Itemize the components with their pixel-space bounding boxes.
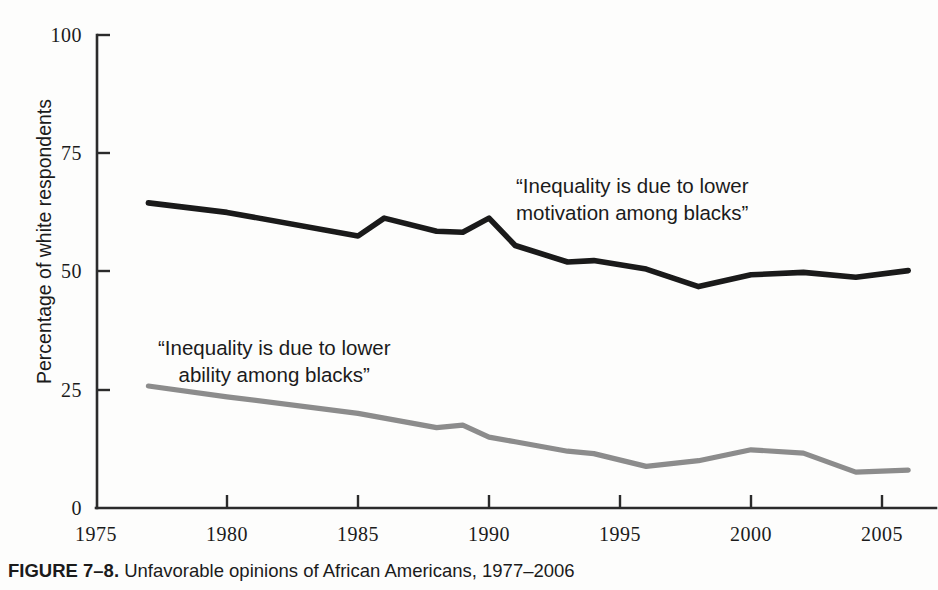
figure-caption-text: Unfavorable opinions of African American…: [119, 560, 575, 581]
x-tick-label-1995: 1995: [580, 523, 660, 546]
x-tick-marks: [227, 495, 882, 508]
annotation-motivation-line2: motivation among blacks”: [516, 199, 748, 226]
y-tick-marks: [97, 35, 110, 390]
x-tick-label-1985: 1985: [318, 523, 398, 546]
y-tick-label-0: 0: [22, 497, 82, 520]
x-tick-label-2005: 2005: [842, 523, 922, 546]
annotation-ability: “Inequality is due to lower ability amon…: [158, 334, 390, 388]
y-tick-label-100: 100: [22, 24, 82, 47]
x-tick-label-1990: 1990: [449, 523, 529, 546]
annotation-ability-line2: ability among blacks”: [158, 361, 390, 388]
figure-container: 100 75 50 25 0 1975 1980 1985 1990 1995 …: [0, 0, 938, 590]
series-line-ability: [148, 386, 908, 472]
chart-plot-area: [0, 0, 938, 590]
figure-caption: FIGURE 7–8. Unfavorable opinions of Afri…: [8, 560, 575, 582]
x-tick-label-2000: 2000: [711, 523, 791, 546]
y-axis-title: Percentage of white respondents: [33, 52, 56, 432]
annotation-motivation: “Inequality is due to lower motivation a…: [516, 172, 748, 226]
x-tick-label-1975: 1975: [56, 523, 136, 546]
figure-caption-label: FIGURE 7–8.: [8, 560, 119, 581]
x-tick-label-1980: 1980: [187, 523, 267, 546]
annotation-motivation-line1: “Inequality is due to lower: [516, 172, 748, 199]
annotation-ability-line1: “Inequality is due to lower: [158, 334, 390, 361]
